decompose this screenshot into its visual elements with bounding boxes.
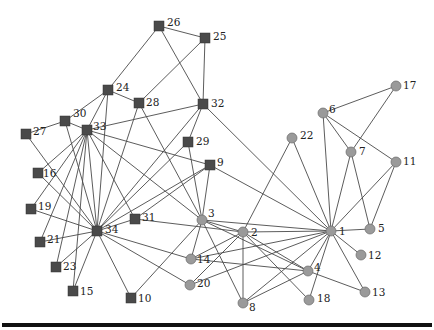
network-graph: 1234567891011121314151617181920212223242… xyxy=(0,0,434,330)
node-label: 3 xyxy=(208,207,215,219)
edge-19-34 xyxy=(31,209,97,231)
node-31[interactable]: 31 xyxy=(130,211,155,224)
circle-node-icon xyxy=(287,133,297,143)
node-18[interactable]: 18 xyxy=(304,292,330,305)
node-20[interactable]: 20 xyxy=(185,277,210,290)
circle-node-icon xyxy=(346,147,356,157)
circle-node-icon xyxy=(318,108,328,118)
node-13[interactable]: 13 xyxy=(360,286,385,298)
edge-1-12 xyxy=(331,231,361,255)
edge-5-7 xyxy=(351,152,370,229)
node-7[interactable]: 7 xyxy=(346,145,366,157)
circle-node-icon xyxy=(197,215,207,225)
node-layer: 1234567891011121314151617181920212223242… xyxy=(21,16,416,313)
square-node-icon xyxy=(21,129,31,139)
node-28[interactable]: 28 xyxy=(134,96,159,108)
circle-node-icon xyxy=(356,250,366,260)
node-29[interactable]: 29 xyxy=(183,135,209,147)
square-node-icon xyxy=(198,99,208,109)
node-label: 31 xyxy=(142,211,155,223)
circle-node-icon xyxy=(360,287,370,297)
square-node-icon xyxy=(183,137,193,147)
square-node-icon xyxy=(205,160,215,170)
node-33[interactable]: 33 xyxy=(82,120,106,135)
node-16[interactable]: 16 xyxy=(33,167,57,179)
node-label: 18 xyxy=(317,292,330,304)
square-node-icon xyxy=(51,262,61,272)
node-label: 23 xyxy=(63,260,76,272)
node-8[interactable]: 8 xyxy=(238,298,256,313)
node-label: 34 xyxy=(105,223,119,235)
node-label: 6 xyxy=(329,103,336,115)
node-label: 28 xyxy=(146,96,159,108)
edge-7-17 xyxy=(351,86,396,152)
node-label: 16 xyxy=(43,167,57,179)
node-6[interactable]: 6 xyxy=(318,103,336,118)
node-2[interactable]: 2 xyxy=(238,226,258,238)
edge-15-34 xyxy=(73,231,97,291)
node-label: 17 xyxy=(403,79,416,91)
square-node-icon xyxy=(200,33,210,43)
square-node-icon xyxy=(68,286,78,296)
square-node-icon xyxy=(33,168,43,178)
edge-24-34 xyxy=(97,90,108,231)
node-label: 15 xyxy=(80,285,93,297)
node-label: 26 xyxy=(167,16,181,28)
edge-1-14 xyxy=(191,231,331,259)
node-19[interactable]: 19 xyxy=(26,200,51,214)
edge-4-8 xyxy=(243,271,308,303)
node-9[interactable]: 9 xyxy=(205,156,224,170)
node-26[interactable]: 26 xyxy=(154,16,181,31)
node-25[interactable]: 25 xyxy=(200,30,226,43)
node-label: 27 xyxy=(33,125,46,137)
circle-node-icon xyxy=(326,226,336,236)
node-label: 25 xyxy=(213,30,226,42)
node-label: 5 xyxy=(378,222,385,234)
node-32[interactable]: 32 xyxy=(198,97,224,109)
node-label: 4 xyxy=(314,261,321,273)
edge-1-22 xyxy=(292,138,331,231)
node-11[interactable]: 11 xyxy=(391,155,416,167)
node-22[interactable]: 22 xyxy=(287,129,313,143)
node-label: 10 xyxy=(138,292,151,304)
edge-4-13 xyxy=(308,271,365,292)
edge-1-11 xyxy=(331,162,396,231)
node-5[interactable]: 5 xyxy=(365,222,385,234)
edge-3-28 xyxy=(139,103,202,220)
node-17[interactable]: 17 xyxy=(391,79,416,91)
node-label: 11 xyxy=(403,155,416,167)
node-14[interactable]: 14 xyxy=(186,253,211,265)
circle-node-icon xyxy=(303,266,313,276)
edge-9-33 xyxy=(87,130,210,165)
node-10[interactable]: 10 xyxy=(126,292,151,304)
square-node-icon xyxy=(126,293,136,303)
edge-1-5 xyxy=(331,229,370,231)
node-label: 9 xyxy=(217,156,224,168)
square-node-icon xyxy=(103,85,113,95)
node-label: 21 xyxy=(47,233,60,245)
node-30[interactable]: 30 xyxy=(60,107,86,126)
edge-1-13 xyxy=(331,231,365,292)
node-15[interactable]: 15 xyxy=(68,285,93,297)
circle-node-icon xyxy=(391,157,401,167)
edge-1-7 xyxy=(331,152,351,231)
edge-14-34 xyxy=(97,231,191,259)
bottom-rule xyxy=(2,323,432,327)
edge-26-32 xyxy=(159,26,203,104)
square-node-icon xyxy=(134,98,144,108)
node-label: 14 xyxy=(197,253,211,265)
node-12[interactable]: 12 xyxy=(356,249,381,261)
node-label: 12 xyxy=(368,249,381,261)
edge-1-6 xyxy=(323,113,331,231)
edge-1-9 xyxy=(210,165,331,231)
node-21[interactable]: 21 xyxy=(35,233,60,247)
edge-3-29 xyxy=(188,142,202,220)
node-24[interactable]: 24 xyxy=(103,81,130,95)
edge-23-33 xyxy=(56,130,87,267)
circle-node-icon xyxy=(391,81,401,91)
edge-30-34 xyxy=(65,121,97,231)
node-27[interactable]: 27 xyxy=(21,125,46,139)
node-3[interactable]: 3 xyxy=(197,207,215,225)
node-label: 30 xyxy=(73,107,86,119)
node-23[interactable]: 23 xyxy=(51,260,76,272)
